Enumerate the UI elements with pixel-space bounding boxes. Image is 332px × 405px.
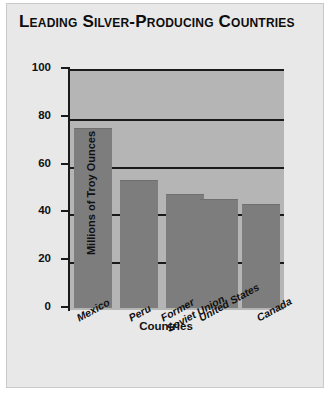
y-tick-label-80: 80 [38, 109, 51, 121]
y-tick-label-40: 40 [38, 204, 51, 216]
y-tick-label-0: 0 [45, 300, 51, 312]
chart-title: Leading Silver-Producing Countries [19, 12, 299, 32]
y-tick-80: 80 [61, 115, 69, 117]
chart-card: Leading Silver-Producing Countries 100 8… [6, 3, 324, 388]
y-tick-20: 20 [61, 258, 69, 260]
bars-layer [70, 69, 284, 308]
plot-frame: 100 80 60 40 20 0 Millions [55, 62, 327, 312]
y-tick-100: 100 [61, 67, 69, 69]
y-tick-0: 0 [61, 306, 69, 308]
y-tick-40: 40 [61, 210, 69, 212]
y-tick-label-100: 100 [32, 61, 51, 73]
y-axis-title: Millions of Troy Ounces [85, 131, 97, 255]
bar-peru[interactable] [120, 180, 158, 308]
x-axis-title: Countries [7, 320, 325, 332]
y-tick-60: 60 [61, 163, 69, 165]
y-tick-label-20: 20 [38, 252, 51, 264]
y-tick-label-60: 60 [38, 157, 51, 169]
